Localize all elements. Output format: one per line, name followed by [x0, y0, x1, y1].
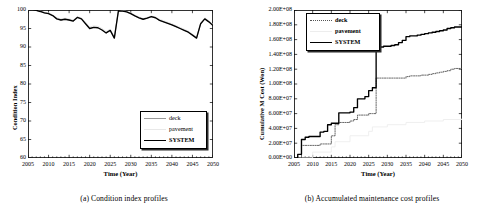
y-tick-label: 100 — [11, 6, 26, 12]
legend-label-pavement-b: pavement — [335, 27, 361, 34]
y-tick-label: 1.60E+08 — [260, 36, 292, 42]
legend-line-icon-system-b — [310, 39, 332, 45]
legend-label-deck-b: deck — [335, 16, 347, 23]
legend-line-icon-deck-b — [310, 17, 332, 23]
legend-item-pavement-b: pavement — [307, 25, 379, 36]
y-axis-title-a: Condition Index — [11, 85, 18, 130]
legend-item-deck-a: deck — [141, 112, 206, 123]
x-axis-title-a: Time (Year) — [28, 170, 213, 177]
panel-maintenance-cost: 0.00E+002.00E+074.00E+076.00E+078.00E+07… — [248, 0, 496, 207]
figure-two-panel-chart: 6065707580859095100 20052010201520202025… — [0, 0, 496, 207]
legend-item-pavement-a: pavement — [141, 123, 206, 134]
x-tick-label: 2050 — [451, 161, 473, 167]
legend-line-icon-pavement-b — [310, 28, 332, 34]
y-tick-label: 85 — [11, 62, 26, 68]
panel-condition-index: 6065707580859095100 20052010201520202025… — [0, 0, 248, 207]
legend-b: deck pavement SYSTEM — [306, 13, 380, 51]
x-axis-title-b: Time (Year) — [294, 170, 462, 177]
y-tick-label: 1.80E+08 — [260, 21, 292, 27]
legend-label-deck-a: deck — [169, 114, 181, 121]
x-tick-label: 2035 — [140, 161, 162, 167]
y-tick-label: 2.00E+08 — [260, 6, 292, 12]
caption-panel-a: (a) Condition index profiles — [0, 194, 248, 203]
legend-item-deck-b: deck — [307, 14, 379, 25]
y-tick-label: 0.00E+00 — [260, 154, 292, 160]
y-tick-label: 2.00E+07 — [260, 140, 292, 146]
legend-line-icon-deck-a — [144, 115, 166, 121]
legend-label-system-a: SYSTEM — [169, 136, 194, 143]
x-tick-label: 2025 — [99, 161, 121, 167]
x-tick-label: 2010 — [38, 161, 60, 167]
x-tick-label: 2030 — [120, 161, 142, 167]
x-tick-label: 2005 — [17, 161, 39, 167]
y-axis-title-b: Cumulative M Cost (Won) — [258, 68, 265, 140]
x-tick-label: 2040 — [161, 161, 183, 167]
legend-label-pavement-a: pavement — [169, 125, 193, 132]
caption-panel-b: (b) Accumulated maintenance cost profile… — [248, 194, 496, 203]
x-tick-label: 2020 — [79, 161, 101, 167]
legend-line-icon-pavement-a — [144, 126, 166, 132]
legend-item-system-a: SYSTEM — [141, 134, 206, 145]
legend-label-system-b: SYSTEM — [335, 38, 360, 45]
y-tick-label: 1.40E+08 — [260, 51, 292, 57]
legend-a: deck pavement SYSTEM — [140, 111, 207, 149]
x-tick-label: 2045 — [181, 161, 203, 167]
legend-item-system-b: SYSTEM — [307, 36, 379, 47]
y-tick-label: 65 — [11, 136, 26, 142]
y-tick-label: 95 — [11, 25, 26, 31]
legend-line-icon-system-a — [144, 137, 166, 143]
y-tick-label: 90 — [11, 43, 26, 49]
x-tick-label: 2050 — [202, 161, 224, 167]
x-tick-label: 2015 — [58, 161, 80, 167]
y-tick-label: 60 — [11, 154, 26, 160]
